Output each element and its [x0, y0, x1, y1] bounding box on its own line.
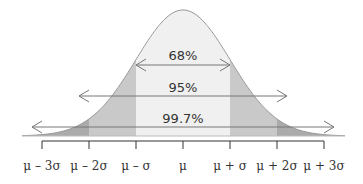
- normal-distribution-chart: 68%95%99.7% μ – 3σμ – 2σμ – σμμ + σμ + 2…: [0, 0, 363, 184]
- tick-label: μ – σ: [121, 159, 151, 173]
- interval-arrows: 68%95%99.7%: [32, 48, 334, 133]
- interval-label: 68%: [169, 48, 198, 63]
- tick-label: μ + σ: [213, 159, 247, 173]
- x-axis: μ – 3σμ – 2σμ – σμμ + σμ + 2σμ + 3σ: [23, 141, 344, 173]
- interval-label: 99.7%: [162, 111, 203, 126]
- interval-label: 95%: [169, 80, 198, 95]
- tick-label: μ – 2σ: [70, 159, 107, 173]
- tick-label: μ: [179, 159, 187, 173]
- tick-label: μ + 3σ: [303, 159, 344, 173]
- tick-label: μ – 3σ: [23, 159, 60, 173]
- tick-label: μ + 2σ: [256, 159, 297, 173]
